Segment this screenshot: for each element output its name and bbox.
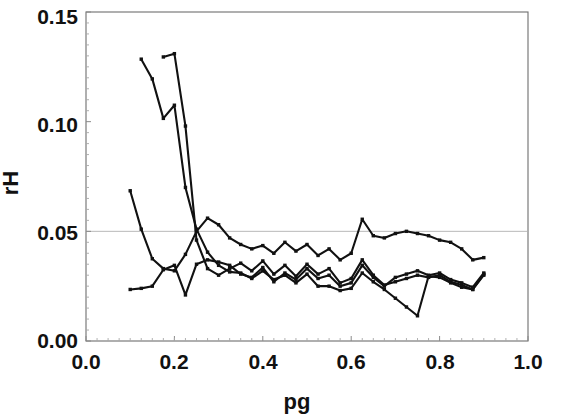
chart-figure: 0.0 0.2 0.4 0.6 0.8 1.0 0.00 0.05 0.10 0… bbox=[0, 0, 564, 418]
x-tick-label-3: 0.6 bbox=[336, 350, 365, 373]
y-tick-label-2: 0.10 bbox=[37, 113, 78, 136]
y-axis-title: rH bbox=[0, 171, 23, 195]
data-series bbox=[129, 189, 486, 272]
x-axis-ticks bbox=[86, 336, 528, 341]
plot-area-frame bbox=[86, 12, 528, 341]
x-axis-title: pg bbox=[284, 389, 311, 414]
y-axis-ticks bbox=[86, 12, 91, 341]
x-tick-label-1: 0.2 bbox=[159, 350, 188, 373]
x-tick-label-0: 0.0 bbox=[71, 350, 100, 373]
y-tick-label-1: 0.05 bbox=[37, 221, 78, 244]
x-tick-label-4: 0.8 bbox=[425, 350, 455, 373]
y-tick-label-3: 0.15 bbox=[37, 5, 78, 28]
data-series-layer bbox=[129, 52, 486, 318]
x-tick-label-2: 0.4 bbox=[248, 350, 278, 373]
x-tick-label-5: 1.0 bbox=[513, 350, 542, 373]
y-tick-label-0: 0.00 bbox=[37, 329, 78, 352]
